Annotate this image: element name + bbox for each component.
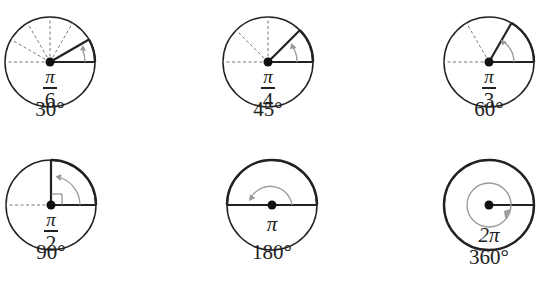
degree-label-90: 90° [11,242,91,263]
angle-panel-30: π 6 30° [0,0,110,140]
degree-label-30: 30° [10,99,90,120]
angle-panel-180: π 180° [222,143,332,283]
rotation-arrow-icon [505,43,514,62]
rotation-arrow-icon [83,50,86,63]
degree-label-45: 45° [228,99,308,120]
degree-label-180: 180° [232,242,312,263]
angle-panel-60: π 3 60° [439,0,537,140]
angle-panel-360: 2π 360° [441,143,537,283]
degree-label-60: 60° [449,99,529,120]
rotation-arrow-icon [60,178,80,206]
degree-label-360: 360° [449,247,529,268]
angle-panel-90: π 2 90° [1,143,111,283]
angle-panel-45: π 4 45° [218,0,328,140]
center-point [485,201,494,210]
center-point [268,201,277,210]
rotation-arrow-icon [294,48,298,62]
radian-label-360: 2π [471,225,507,246]
radian-label-180: π [257,214,287,235]
